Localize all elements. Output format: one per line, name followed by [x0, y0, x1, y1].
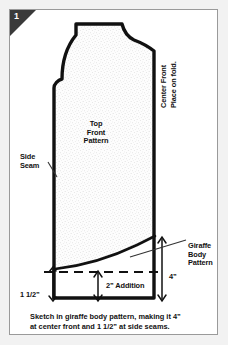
- caption-line-2: at center front and 1 1/2” at side seams…: [30, 322, 206, 332]
- label-two-inch-addition: 2” Addition: [106, 282, 166, 291]
- caption-line-1: Sketch in giraffe body pattern, making i…: [30, 312, 206, 322]
- label-one-and-half-inch: 1 1/2”: [20, 291, 52, 300]
- label-place-on-fold: Place on fold.: [170, 22, 179, 108]
- label-four-inch: 4”: [169, 273, 185, 282]
- figure-number-label: 1: [14, 10, 19, 22]
- label-top-front-pattern: Top Front Pattern: [73, 120, 119, 146]
- label-side-seam: Side Seam: [20, 153, 54, 170]
- figure-frame: 1 Top Front Pattern Side Seam Center Fro…: [9, 9, 218, 335]
- figure-container: 1 Top Front Pattern Side Seam Center Fro…: [0, 0, 228, 345]
- figure-caption: Sketch in giraffe body pattern, making i…: [30, 312, 206, 332]
- label-center-front: Center Front: [160, 22, 169, 108]
- label-giraffe-body-pattern: Giraffe Body Pattern: [188, 242, 218, 268]
